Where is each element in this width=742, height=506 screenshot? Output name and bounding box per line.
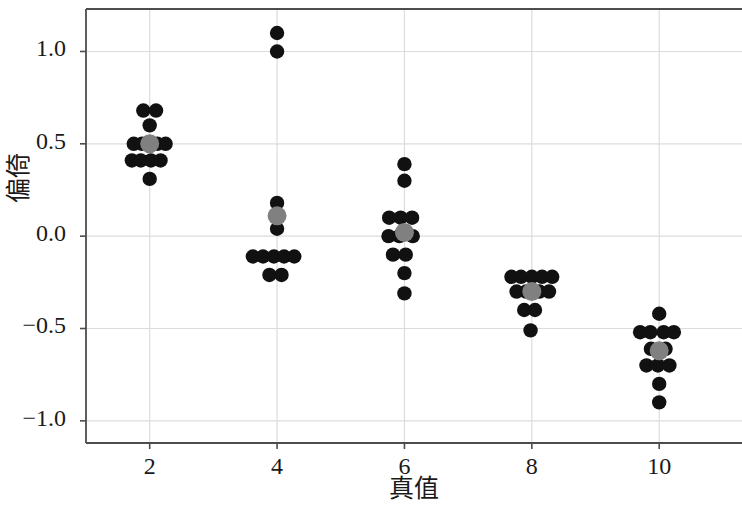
data-point — [142, 118, 156, 132]
data-point — [667, 325, 681, 339]
data-point — [662, 358, 676, 372]
data-point — [652, 377, 666, 391]
data-point — [270, 26, 284, 40]
group-mean-marker — [268, 206, 287, 225]
plot-background — [86, 9, 742, 443]
data-point — [153, 153, 167, 167]
data-point — [386, 247, 400, 261]
data-point — [397, 174, 411, 188]
data-point — [287, 249, 301, 263]
data-point — [652, 395, 666, 409]
data-point — [652, 307, 666, 321]
data-point — [545, 270, 559, 284]
data-point — [274, 268, 288, 282]
data-point — [542, 284, 556, 298]
data-point — [523, 323, 537, 337]
group-mean-marker — [395, 223, 414, 242]
data-point — [643, 325, 657, 339]
group-mean-marker — [650, 341, 669, 360]
group-mean-marker — [140, 134, 159, 153]
data-point — [528, 303, 542, 317]
scatter-plot-canvas — [0, 0, 742, 506]
data-point — [397, 286, 411, 300]
data-point — [397, 157, 411, 171]
data-point — [397, 266, 411, 280]
group-mean-marker — [522, 282, 541, 301]
data-point — [405, 210, 419, 224]
data-point — [158, 137, 172, 151]
data-point — [399, 247, 413, 261]
data-point — [142, 172, 156, 186]
chart-figure: 偏倚 真值 1.00.50.0−0.5−1.0246810 — [0, 0, 742, 506]
data-point — [270, 44, 284, 58]
data-point — [149, 103, 163, 117]
data-point — [136, 103, 150, 117]
